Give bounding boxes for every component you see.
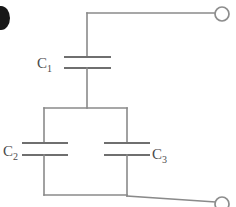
- terminal-top-right[interactable]: [215, 7, 229, 21]
- schematic-canvas: [0, 0, 236, 207]
- terminal-bottom-right[interactable]: [215, 197, 229, 207]
- scan-edge-blob-icon: [0, 6, 10, 30]
- wire-bottom-rail-right: [127, 196, 215, 202]
- circuit-diagram-figure: C1 C2 C3: [0, 0, 236, 207]
